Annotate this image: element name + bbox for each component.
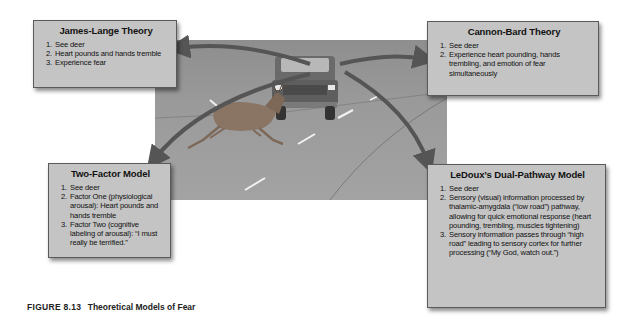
step-item: Heart pounds and hands tremble [54, 49, 170, 58]
step-item: See deer [448, 41, 592, 50]
ledoux-title: LeDoux’s Dual-Pathway Model [436, 169, 599, 180]
lane-dash [338, 110, 353, 118]
figure-caption: FIGURE 8.13 Theoretical Models of Fear [27, 302, 195, 312]
step-item: Experience fear [54, 58, 170, 67]
step-item: See deer [448, 184, 599, 193]
two-factor-model-box: Two-Factor Model See deer Factor One (ph… [48, 163, 171, 258]
james-lange-theory-box: James-Lange Theory See deer Heart pounds… [33, 20, 177, 88]
lane-dash [370, 95, 380, 100]
cannon-bard-theory-box: Cannon-Bard Theory See deer Experience h… [427, 21, 599, 96]
road-scene-photo [155, 40, 447, 200]
step-item: Sensory information passes through “high… [448, 230, 599, 258]
figure-number: FIGURE 8.13 [27, 302, 81, 312]
two-factor-steps: See deer Factor One (physiological arous… [57, 183, 164, 247]
road-scene-illustration [155, 40, 447, 200]
step-item: Factor One (physiological arousal): Hear… [69, 192, 164, 220]
two-factor-title: Two-Factor Model [57, 168, 164, 179]
ledoux-dual-pathway-box: LeDoux’s Dual-Pathway Model See deer Sen… [427, 164, 606, 308]
james-lange-title: James-Lange Theory [42, 25, 170, 36]
step-item: See deer [54, 40, 170, 49]
step-item: Sensory (visual) information processed b… [448, 193, 599, 230]
ledoux-steps: See deer Sensory (visual) information pr… [436, 184, 599, 258]
truck [272, 56, 338, 120]
lane-dash [298, 134, 315, 144]
lane-dash [245, 178, 265, 190]
step-item: Factor Two (cognitive labeling of arousa… [69, 220, 164, 248]
step-item: Experience heart pounding, hands trembli… [448, 50, 592, 78]
cannon-bard-title: Cannon-Bard Theory [436, 26, 592, 37]
james-lange-steps: See deer Heart pounds and hands tremble … [42, 40, 170, 68]
step-item: See deer [69, 183, 164, 192]
cannon-bard-steps: See deer Experience heart pounding, hand… [436, 41, 592, 78]
figure-title: Theoretical Models of Fear [88, 302, 196, 312]
